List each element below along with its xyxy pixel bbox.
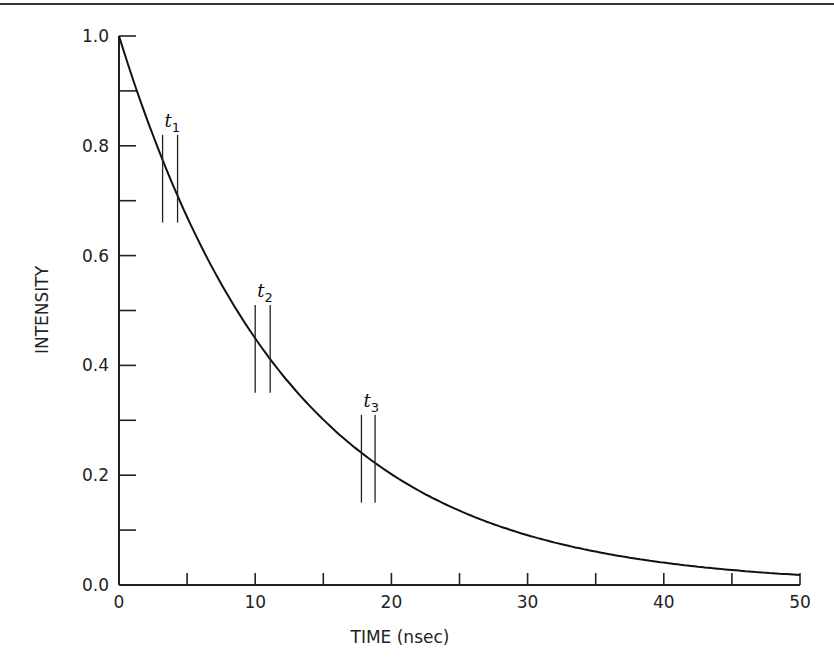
decay-curve-path	[119, 36, 800, 575]
x-tick-label: 20	[381, 592, 403, 612]
x-tick-label: 10	[244, 592, 266, 612]
y-axis-title: INTENSITY	[32, 265, 52, 354]
axes: 0.00.20.40.60.81.001020304050	[82, 26, 811, 612]
x-tick-label: 50	[789, 592, 811, 612]
marker-label-t3: t3	[363, 390, 379, 415]
y-tick-label: 1.0	[82, 26, 109, 46]
y-tick-label: 0.0	[82, 575, 109, 595]
marker-label-t2: t2	[257, 280, 273, 305]
y-tick-label: 0.8	[82, 136, 109, 156]
y-tick-label: 0.6	[82, 246, 109, 266]
y-tick-label: 0.2	[82, 465, 109, 485]
decay-curve	[119, 36, 800, 575]
x-tick-label: 40	[653, 592, 675, 612]
marker-label-t1: t1	[165, 110, 181, 135]
x-axis-title: TIME (nsec)	[350, 627, 450, 647]
time-window-markers: t1t2t3	[163, 110, 379, 503]
x-tick-label: 0	[114, 592, 125, 612]
y-tick-label: 0.4	[82, 355, 109, 375]
x-tick-label: 30	[517, 592, 539, 612]
decay-chart: 0.00.20.40.60.81.001020304050 t1t2t3 TIM…	[0, 0, 834, 658]
